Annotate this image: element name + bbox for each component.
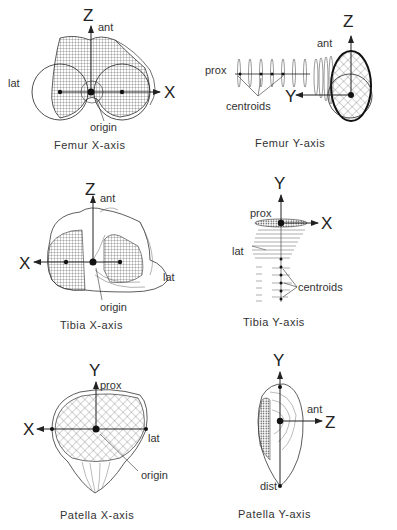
- anatomical-label-ant: ant: [307, 404, 322, 415]
- tibia-x-diagram: [34, 196, 168, 300]
- patella-articular-surface: [258, 398, 270, 460]
- centroids-label: centroids: [226, 101, 271, 112]
- axis-label-vertical: Z: [83, 7, 93, 24]
- patella-x-diagram: [37, 382, 148, 493]
- axis-label-vertical: Z: [343, 13, 353, 30]
- anatomical-label-prox: prox: [250, 208, 271, 219]
- panel-caption: Patella X-axis: [60, 510, 134, 521]
- origin-label: origin: [90, 122, 117, 133]
- origin-label: origin: [141, 470, 168, 481]
- centroids-label: centroids: [298, 282, 343, 293]
- femur-x-diagram: [32, 26, 160, 121]
- anatomical-label-prox: prox: [205, 65, 226, 76]
- panel-caption: Femur X-axis: [54, 140, 125, 151]
- origin-point: [90, 259, 97, 266]
- panel-caption: Patella Y-axis: [238, 509, 311, 520]
- origin-point: [348, 92, 354, 98]
- panel-caption: Tibia Y-axis: [243, 317, 305, 328]
- axis-label-horizontal: Y: [285, 88, 296, 105]
- lateral-articular-mesh: [104, 235, 143, 283]
- patella-articular-mesh: [55, 394, 144, 462]
- origin-label: origin: [100, 302, 127, 313]
- axis-label-vertical: Y: [274, 175, 285, 192]
- anatomical-label-prox: prox: [100, 380, 121, 391]
- anatomical-label-dist: dist: [260, 481, 277, 492]
- axis-label-horizontal: Z: [325, 414, 335, 431]
- panel-caption: Tibia X-axis: [60, 320, 123, 331]
- origin-point: [277, 418, 283, 424]
- origin-point: [93, 426, 100, 433]
- anatomical-label-ant: ant: [317, 38, 332, 49]
- anatomical-label-lat: lat: [148, 433, 160, 444]
- axis-label-horizontal: X: [19, 255, 30, 272]
- panel-caption: Femur Y-axis: [255, 138, 325, 149]
- femur-mesh: [52, 36, 150, 118]
- anatomical-label-ant: ant: [100, 193, 115, 204]
- anatomical-label-lat: lat: [163, 272, 175, 283]
- anatomical-label-ant: ant: [98, 22, 113, 33]
- anatomical-label-lat: lat: [8, 78, 20, 89]
- patella-y-diagram: [258, 372, 322, 488]
- axis-label-horizontal: X: [321, 215, 332, 232]
- axis-label-vertical: Z: [85, 181, 95, 198]
- origin-point: [88, 89, 95, 96]
- figure-canvas: [0, 0, 397, 530]
- origin-point: [278, 220, 284, 226]
- anatomical-label-lat: lat: [232, 246, 244, 257]
- axis-label-horizontal: X: [164, 84, 175, 101]
- axis-label-vertical: Y: [89, 362, 100, 379]
- axis-label-horizontal: X: [23, 421, 34, 438]
- axis-label-vertical: Y: [273, 352, 284, 369]
